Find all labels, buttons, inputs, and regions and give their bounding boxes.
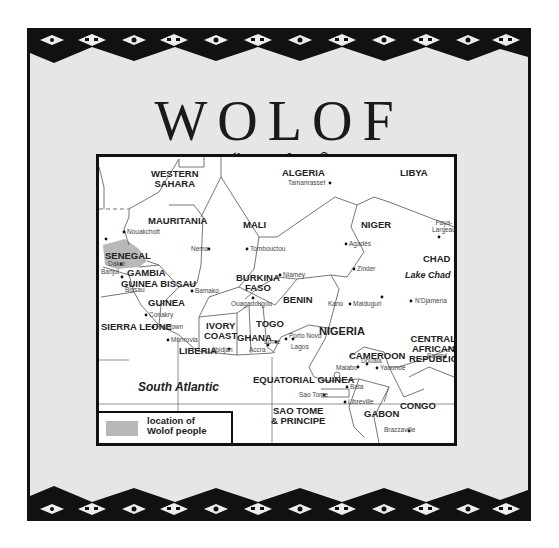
city-monrovia: Monrovia (171, 337, 198, 344)
label-chad: CHAD (423, 254, 450, 264)
decorative-bottom-border (30, 482, 528, 518)
label-niger: NIGER (361, 220, 391, 230)
label-nigeria: NIGERIA (319, 326, 365, 338)
city-ndjamena: N'Djamena (415, 298, 447, 305)
legend-swatch-wolof (106, 421, 138, 436)
city-zinder: Zinder (357, 266, 375, 273)
label-gabon: GABON (364, 409, 399, 419)
city-agades: Agadès (349, 241, 371, 248)
label-libya: LIBYA (400, 168, 428, 178)
city-maiduguri: Maiduguri (353, 301, 382, 308)
city-sao-tome: Sao Tome (299, 392, 328, 399)
label-benin: BENIN (283, 295, 313, 305)
city-tamanrasset: Tamanrasset (288, 180, 325, 187)
label-western-sahara-line2: SAHARA (154, 178, 195, 189)
city-bamako: Bamako (195, 288, 219, 295)
city-lome: Lome (264, 339, 280, 346)
city-niamey: Niamey (283, 272, 305, 279)
city-faya-largeau: Faya-Largeau (432, 220, 456, 233)
label-sao-tome-principe: SAO TOME& PRINCIPE (271, 406, 325, 426)
label-burkina-faso-line2: FASO (245, 282, 271, 293)
city-banjul: Banjul (101, 269, 119, 276)
legend-label: location ofWolof people (147, 416, 206, 437)
label-ivory-coast: IVORYCOAST (204, 321, 237, 341)
city-bata: Bata (350, 384, 363, 391)
label-guinea: GUINEA (148, 298, 185, 308)
city-ouagadougou: Ouagadougou (231, 301, 272, 308)
label-congo: CONGO (400, 401, 436, 411)
legend-label-line2: Wolof people (147, 425, 206, 436)
city-bissau: Bissau (125, 287, 145, 294)
label-equatorial-guinea: EQUATORIAL GUINEA (253, 375, 354, 385)
label-gambia: GAMBIA (127, 268, 166, 278)
label-togo: TOGO (256, 319, 284, 329)
city-brazzaville: Brazzaville (384, 427, 415, 434)
map-legend: location ofWolof people (99, 411, 233, 443)
city-kano: Kano (328, 301, 343, 308)
city-lagos: Lagos (291, 344, 309, 351)
city-tombouctou: Tombouctou (250, 246, 285, 253)
page-title: WOLOF (30, 93, 528, 149)
city-conakry: Conakry (149, 312, 173, 319)
city-douala: Douala (361, 358, 382, 365)
city-dakar: Dakar (108, 261, 125, 268)
label-sao-tome-line2: & PRINCIPE (271, 415, 325, 426)
city-bangui: Bangui (427, 353, 447, 360)
label-algeria: ALGERIA (282, 168, 325, 178)
label-burkina-faso: BURKINAFASO (236, 273, 280, 293)
city-malabo: Malabo (336, 365, 357, 372)
city-freetown: Freetown (156, 324, 183, 331)
legend-label-line1: location of (147, 415, 195, 426)
map-panel: WESTERNSAHARA ALGERIA LIBYA MAURITANIA M… (96, 154, 457, 446)
city-yaounde: Yaoundé (380, 365, 406, 372)
city-faya-line2: Largeau (432, 226, 456, 233)
city-nouakchott: Nouakchott (127, 229, 160, 236)
city-accra: Accra (249, 347, 266, 354)
label-western-sahara: WESTERNSAHARA (151, 169, 199, 189)
label-mauritania: MAURITANIA (148, 216, 207, 226)
city-nema: Nema (191, 246, 208, 253)
city-libreville: Libreville (348, 399, 374, 406)
label-south-atlantic: South Atlantic (138, 380, 219, 394)
decorative-top-border (30, 31, 528, 67)
label-mali: MALI (243, 220, 266, 230)
city-porto-novo: Porto Novo (289, 333, 322, 340)
label-ivory-coast-line2: COAST (204, 330, 237, 341)
city-abidjan: Abidjan (211, 347, 233, 354)
label-lake-chad: Lake Chad (405, 270, 451, 280)
